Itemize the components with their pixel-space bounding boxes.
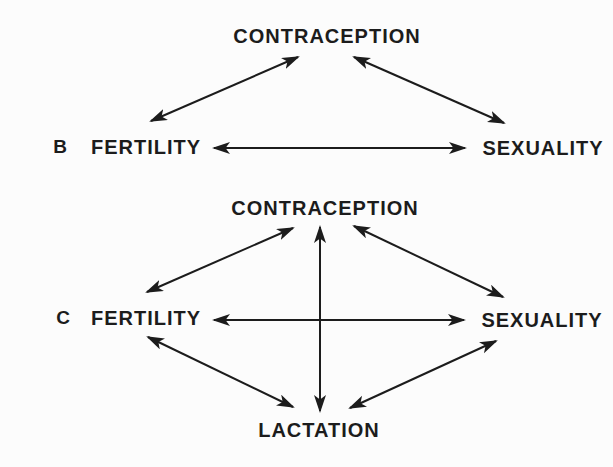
node-c-fertility: FERTILITY xyxy=(91,307,201,330)
node-c-contraception: CONTRACEPTION xyxy=(231,197,418,220)
node-c-lactation: LACTATION xyxy=(258,419,380,442)
panel-label-c: C xyxy=(56,307,70,329)
figure-canvas: B CONTRACEPTION FERTILITY SEXUALITY C CO… xyxy=(0,0,613,467)
edge-b-contraception-sexuality xyxy=(354,57,504,123)
node-b-sexuality: SEXUALITY xyxy=(482,137,603,160)
node-b-fertility: FERTILITY xyxy=(91,136,201,159)
edge-c-contraception-sexuality xyxy=(354,226,503,297)
panel-label-b: B xyxy=(53,136,67,158)
edge-c-fertility-lactation xyxy=(148,337,293,407)
node-c-sexuality: SEXUALITY xyxy=(481,309,602,332)
arrow-layer xyxy=(0,0,613,467)
node-b-contraception: CONTRACEPTION xyxy=(233,25,420,48)
edge-c-fertility-contraception xyxy=(147,228,293,292)
edge-c-sexuality-lactation xyxy=(350,341,496,408)
edge-b-fertility-contraception xyxy=(151,57,298,121)
